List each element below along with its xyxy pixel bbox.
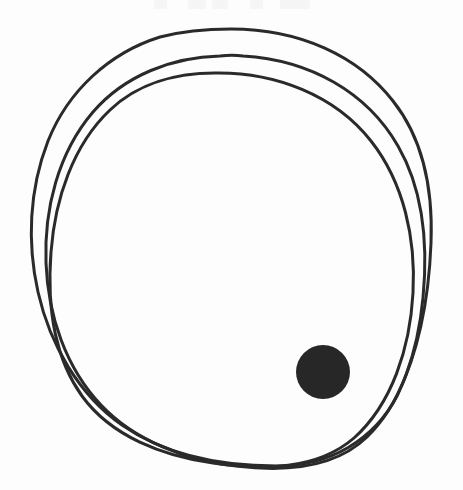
drawing-canvas bbox=[0, 0, 463, 490]
sketch-illustration bbox=[0, 0, 463, 490]
outer-circle bbox=[31, 29, 431, 466]
filled-dot bbox=[296, 345, 350, 399]
